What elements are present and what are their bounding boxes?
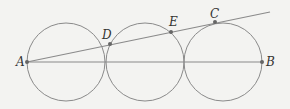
- diagram-canvas: [0, 0, 290, 109]
- point-B: [260, 60, 264, 64]
- label-C: C: [210, 8, 219, 20]
- tangent-line-AC: [27, 12, 270, 62]
- point-E: [169, 30, 173, 34]
- point-A: [25, 60, 29, 64]
- label-B: B: [266, 56, 275, 68]
- label-D: D: [102, 29, 112, 41]
- label-A: A: [16, 56, 25, 68]
- label-E: E: [169, 16, 178, 28]
- point-D: [108, 42, 112, 46]
- geometry-diagram: A B C D E: [0, 0, 290, 109]
